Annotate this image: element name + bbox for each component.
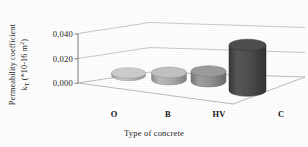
bar-cylinder-c xyxy=(229,39,266,96)
y-axis-tick-labels: 0,040 0,020 0,000 xyxy=(27,0,73,147)
y-axis-tick-label: 0,020 xyxy=(29,54,73,64)
x-axis-category-c: C xyxy=(270,110,292,119)
bar-cylinder-hv xyxy=(191,66,226,87)
x-axis-category-b: B xyxy=(157,110,179,119)
bar-cylinder-o xyxy=(112,68,146,81)
x-axis-category-o: O xyxy=(103,110,125,119)
x-axis-title: Type of concrete xyxy=(0,128,308,138)
x-axis-category-hv: HV xyxy=(208,110,230,119)
y-axis-tick-label: 0,040 xyxy=(29,29,73,39)
y-axis-tick-label: 0,000 xyxy=(29,78,73,88)
permeability-coefficient-chart: Permeability coefficient kT (*10-16 m2) … xyxy=(0,0,308,147)
back-wall-gridlines xyxy=(78,23,305,59)
y-axis-line xyxy=(75,34,79,84)
y-axis-title-superscript: 2 xyxy=(19,42,26,45)
y-axis-title-line1: Permeability coefficient xyxy=(8,24,17,105)
bar-cylinder-b xyxy=(152,67,187,85)
